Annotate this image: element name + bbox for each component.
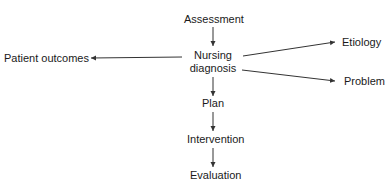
arrow-diagnosis-to-problem [242,70,335,81]
node-plan: Plan [202,97,224,109]
diagram-edges [0,0,385,183]
arrow-diagnosis-to-etiology [243,42,335,56]
node-nursing-diagnosis-line2: diagnosis [182,62,244,74]
node-intervention: Intervention [187,133,244,145]
arrow-diagnosis-to-patient-outcomes [91,57,182,58]
node-nursing-diagnosis-line1: Nursing [182,49,244,61]
node-evaluation: Evaluation [190,169,241,181]
node-problem: Problem [344,75,385,87]
node-nursing-diagnosis: Nursing diagnosis [182,49,244,74]
node-patient-outcomes: Patient outcomes [4,52,89,64]
node-assessment: Assessment [184,13,244,25]
node-etiology: Etiology [342,36,381,48]
